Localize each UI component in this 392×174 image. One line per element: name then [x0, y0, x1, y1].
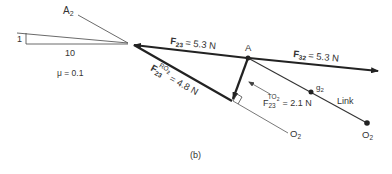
- slope-rise-label: 1: [17, 34, 22, 44]
- slope-hypotenuse: [17, 33, 128, 43]
- o2-label: O2: [362, 129, 373, 141]
- f23-ro2-line: [134, 45, 232, 101]
- f23-to2-arrow: [233, 58, 248, 99]
- f23-to2-label: F23TO2= 2.1 N: [263, 93, 312, 109]
- point-a-label: A: [245, 42, 252, 53]
- o2-ref-label: O2: [290, 128, 301, 140]
- point-o2: [364, 120, 370, 126]
- slope-indicator: A2 1 10 μ = 0.1: [17, 5, 128, 78]
- link-label: Link: [337, 96, 354, 106]
- figure-caption: (b): [190, 150, 201, 160]
- friction-label: μ = 0.1: [57, 68, 84, 78]
- point-g2: [309, 90, 314, 95]
- radial-reference-line: [233, 101, 288, 133]
- g2-label: g2: [316, 83, 324, 93]
- slope-run-label: 10: [65, 48, 75, 58]
- force-diagram: A2 1 10 μ = 0.1 F23= 5.3 N F32= 5.3 N A …: [0, 0, 392, 174]
- a2-label: A2: [63, 5, 74, 17]
